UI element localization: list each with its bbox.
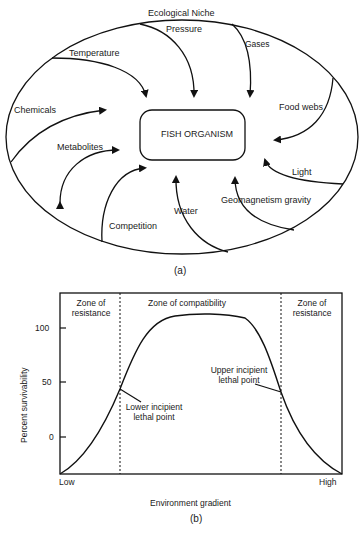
panel-label-a: (a) [174,266,186,276]
zone-right-line1: Zone of [284,299,340,308]
water-label: Water [174,207,198,216]
gases-label: Gases [245,40,270,49]
fish-organism-label: FISH ORGANISM [161,130,233,139]
ecological-niche-label: Ecological Niche [148,9,215,18]
lower-lethal-leader [120,389,141,402]
panel-label-b: (b) [190,514,202,524]
gases-arrow [232,24,251,96]
food-webs-label: Food webs [279,103,323,112]
y-tick-label-50: 50 [42,378,51,387]
lower-incipient-lethal-label: Lower incipient lethal point [122,403,186,421]
temperature-label: Temperature [69,49,120,58]
lower-line2: lethal point [122,413,186,422]
upper-line1: Upper incipient [200,366,278,375]
zone-left-line2: resistance [64,309,118,318]
upper-lethal-leader [255,384,281,392]
zone-compatibility-label: Zone of compatibility [148,299,226,308]
metabolites-label: Metabolites [57,143,103,152]
zone-resistance-right-label: Zone of resistance [284,299,340,317]
y-tick-label-0: 0 [49,433,54,442]
x-axis-low-label: Low [59,478,75,487]
upper-incipient-lethal-label: Upper incipient lethal point [200,366,278,384]
pressure-label: Pressure [166,25,202,34]
light-label: Light [292,168,312,177]
chemicals-arrow [11,110,105,162]
x-axis-label: Environment gradient [150,499,231,508]
lower-line1: Lower incipient [122,403,186,412]
y-axis-label: Percent survivability [20,367,29,443]
zone-left-line1: Zone of [64,299,118,308]
zone-right-line2: resistance [284,309,340,318]
figure-a-drawing [0,0,359,290]
x-axis-high-label: High [319,478,336,487]
zone-resistance-left-label: Zone of resistance [64,299,118,317]
competition-label: Competition [109,222,157,231]
geomagnetism-label: Geomagnetism gravity [221,196,311,205]
survivability-curve [60,314,342,474]
y-tick-label-100: 100 [35,324,49,333]
temperature-arrow [52,58,146,96]
upper-line2: lethal point [200,376,278,385]
pressure-arrow [140,24,194,96]
chemicals-label: Chemicals [14,106,56,115]
